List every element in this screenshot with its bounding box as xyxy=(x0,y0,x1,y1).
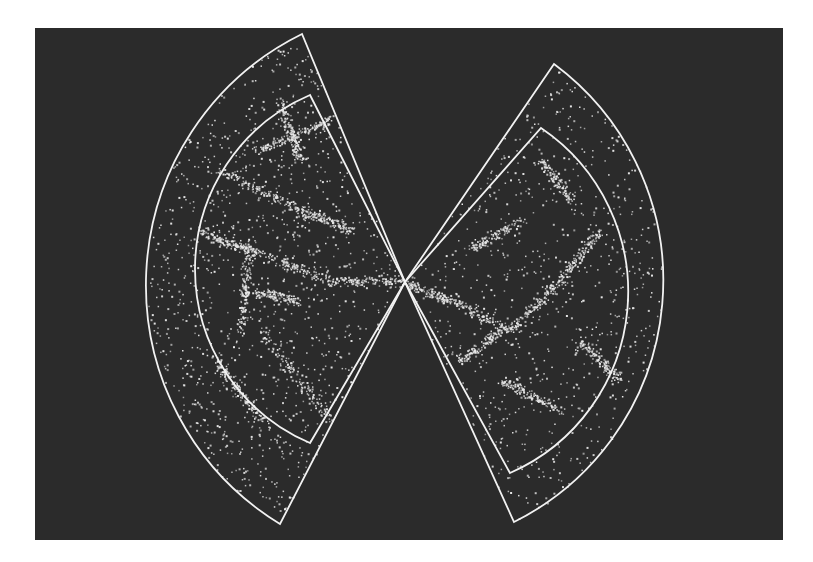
left-wedge-inner-boundary xyxy=(195,95,405,443)
wedge-diagram xyxy=(0,0,813,562)
right-wedge-outer-boundary xyxy=(405,64,663,522)
wedge-outlines xyxy=(146,34,663,524)
